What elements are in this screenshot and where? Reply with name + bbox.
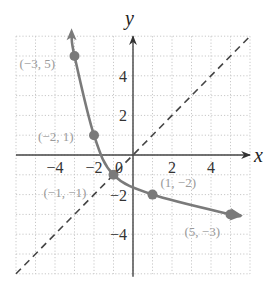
axes <box>16 36 250 277</box>
x-tick-label: 2 <box>168 159 176 176</box>
x-tick-label: 0 <box>115 159 123 176</box>
data-point <box>226 209 236 219</box>
curve-path <box>72 36 241 216</box>
y-axis-label: y <box>123 7 134 30</box>
point-label: (−1, −1) <box>44 185 87 200</box>
data-point <box>89 130 99 140</box>
y-tick-label: −4 <box>110 226 127 243</box>
y-tick-label: −2 <box>110 187 127 204</box>
x-tick-label: −4 <box>46 159 63 176</box>
curve <box>67 28 241 216</box>
data-point <box>148 190 158 200</box>
x-tick-label: 4 <box>207 159 215 176</box>
y-tick-label: 4 <box>119 68 127 85</box>
point-label: (−2, 1) <box>38 129 74 144</box>
point-label: (5, −3) <box>185 224 221 239</box>
y-tick-label: 2 <box>119 107 127 124</box>
data-point <box>70 51 80 61</box>
x-axis-label: x <box>253 144 263 166</box>
point-label: (−3, 5) <box>20 56 56 71</box>
x-tick-label: −2 <box>85 159 102 176</box>
graph: −4−202442−2−4 (−3, 5)(−2, 1)(−1, −1)(1, … <box>0 0 280 291</box>
point-label: (1, −2) <box>161 175 197 190</box>
